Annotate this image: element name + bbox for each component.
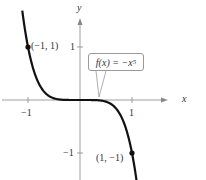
y-axis-arrow-icon bbox=[78, 18, 83, 25]
x-axis-label: x bbox=[182, 94, 186, 104]
function-callout: f(x) = −x5 bbox=[88, 53, 144, 71]
callout-tail bbox=[96, 71, 106, 97]
x-axis-arrow-icon bbox=[161, 98, 168, 103]
point-label-b: (1, −1) bbox=[96, 153, 123, 163]
tick-label-y-neg1: −1 bbox=[63, 148, 74, 158]
callout-exponent: 5 bbox=[133, 58, 137, 66]
point-neg1-1 bbox=[25, 44, 30, 49]
tick-label-x-1: 1 bbox=[129, 108, 134, 118]
point-1-neg1 bbox=[129, 150, 134, 155]
tick-label-x-neg1: −1 bbox=[21, 108, 32, 118]
callout-text: f(x) = −x bbox=[96, 57, 133, 68]
tick-label-y-1: 1 bbox=[70, 42, 75, 52]
point-label-a: (−1, 1) bbox=[31, 41, 58, 51]
y-axis-label: y bbox=[77, 3, 81, 13]
